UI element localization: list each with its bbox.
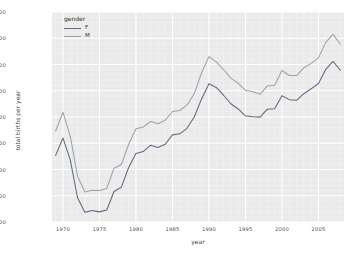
y-tick-label: 2000000: [0, 88, 6, 94]
x-tick-label: 1985: [166, 226, 180, 232]
chart-figure: 1500000160000017000001800000190000020000…: [0, 0, 354, 259]
x-tick-label: 1980: [129, 226, 143, 232]
plot-area: [52, 12, 344, 222]
y-tick-label: 1900000: [0, 114, 6, 120]
x-tick-label: 2000: [275, 226, 289, 232]
legend-swatch-f: [64, 28, 81, 29]
y-tick-label: 2100000: [0, 62, 6, 68]
legend-label-m: M: [85, 33, 90, 39]
y-tick-label: 1800000: [0, 140, 6, 146]
legend-swatch-m: [64, 36, 81, 37]
legend-title: gender: [64, 15, 90, 22]
x-tick-label: 2005: [312, 226, 326, 232]
y-tick-label: 1500000: [0, 219, 6, 225]
x-tick-label: 1995: [239, 226, 253, 232]
legend-item-f: F: [64, 24, 90, 32]
legend-label-f: F: [85, 25, 88, 31]
y-axis-label: total births per year: [14, 61, 21, 181]
x-axis-label: year: [52, 238, 344, 245]
y-tick-label: 2200000: [0, 35, 6, 41]
y-tick-label: 2300000: [0, 9, 6, 15]
x-tick-label: 1990: [202, 226, 216, 232]
x-tick-label: 1975: [93, 226, 107, 232]
legend: gender F M: [62, 15, 90, 40]
legend-item-m: M: [64, 32, 90, 40]
y-tick-label: 1700000: [0, 167, 6, 173]
x-tick-label: 1970: [56, 226, 70, 232]
y-tick-label: 1600000: [0, 193, 6, 199]
series-lines: [52, 12, 344, 222]
